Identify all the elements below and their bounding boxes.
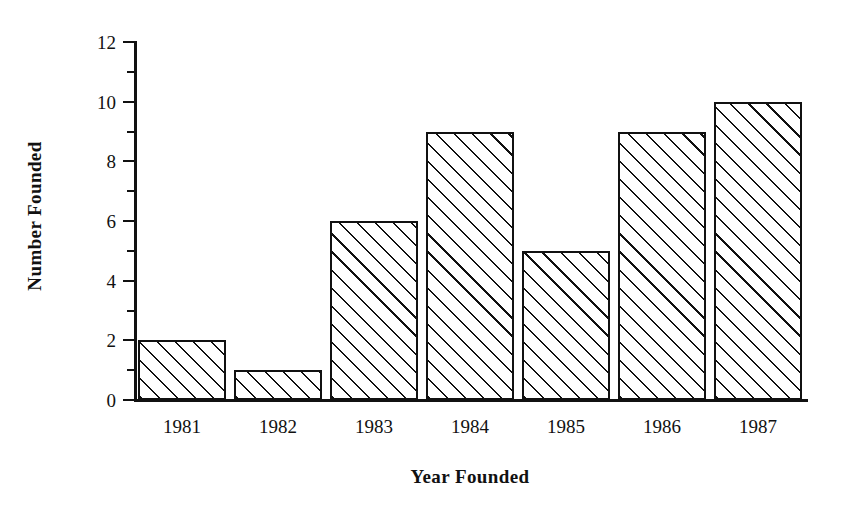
y-axis-tick-label: 8 (80, 152, 116, 171)
bar-1983 (330, 221, 418, 400)
y-axis-major-tick (123, 399, 134, 401)
bar-chart: Number Founded 024681012 198119821983198… (0, 0, 850, 510)
y-axis-minor-tick (127, 71, 134, 73)
x-axis-tick-label: 1982 (234, 414, 322, 440)
x-axis-tick-labels: 1981198219831984198519861987 (134, 414, 806, 444)
bar-1987 (714, 102, 802, 400)
y-axis-major-tick (123, 339, 134, 341)
x-axis-tick-label: 1981 (138, 414, 226, 440)
x-axis-tick-label: 1986 (618, 414, 706, 440)
x-axis-tick-label: 1984 (426, 414, 514, 440)
y-axis-minor-tick (127, 250, 134, 252)
y-axis-minor-tick (127, 131, 134, 133)
y-axis-minor-tick (127, 310, 134, 312)
y-axis-tick-label: 4 (80, 272, 116, 291)
plot-area (134, 42, 806, 400)
bar-1985 (522, 251, 610, 400)
bar-1982 (234, 370, 322, 400)
bar-1984 (426, 132, 514, 401)
y-axis-minor-tick (127, 190, 134, 192)
x-axis-tick-label: 1985 (522, 414, 610, 440)
y-axis-tick-labels: 024681012 (76, 0, 116, 510)
y-axis-tick-label: 10 (80, 93, 116, 112)
y-axis-tick-label: 2 (80, 331, 116, 350)
y-axis-title: Number Founded (22, 36, 48, 396)
x-axis-tick-label: 1987 (714, 414, 802, 440)
y-axis-major-tick (123, 280, 134, 282)
bar-1986 (618, 132, 706, 401)
y-axis-minor-tick (127, 369, 134, 371)
y-axis-tick-label: 6 (80, 212, 116, 231)
bar-1981 (138, 340, 226, 400)
y-axis-major-tick (123, 220, 134, 222)
x-axis-tick-label: 1983 (330, 414, 418, 440)
y-axis-major-tick (123, 101, 134, 103)
y-axis-tick-label: 0 (80, 391, 116, 410)
y-axis-major-tick (123, 41, 134, 43)
y-axis-tick-label: 12 (80, 33, 116, 52)
y-axis-major-tick (123, 160, 134, 162)
x-axis-title: Year Founded (134, 466, 806, 488)
